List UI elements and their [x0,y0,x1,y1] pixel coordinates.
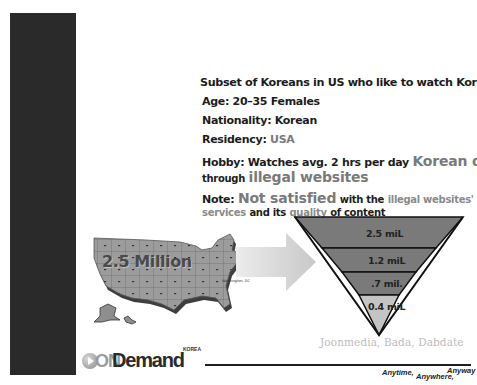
note-text-2: and its [249,207,286,218]
play-icon [88,357,94,365]
nationality-value: Korean [275,114,317,127]
hobby-text-2: through [202,173,245,184]
note-highlight-not-satisfied: Not satisfied [238,190,336,206]
residency-line: Residency: USA [202,133,477,146]
residency-value: USA [270,133,294,146]
decorative-side-bar [10,13,76,375]
hobby-highlight-korean-drama: Korean drama [412,153,477,169]
note-highlight-services: services [202,207,246,218]
hobby-label: Hobby: [202,156,244,169]
slide-heading: Subset of Koreans in US who like to watc… [200,76,477,89]
tagline-anyway: Anyway [447,366,475,375]
note-label: Note: [202,193,234,206]
funnel-label-3: .7 mil. [371,278,402,289]
age-value: 20–35 Females [233,95,320,108]
age-label: Age: [202,95,229,108]
tagline-anytime: Anytime, [382,368,414,377]
funnel-label-1: 2.5 miL [366,228,403,239]
age-line: Age: 20–35 Females [202,95,477,108]
logo-demand-text: Demand [112,349,184,372]
nationality-line: Nationality: Korean [202,114,477,127]
us-map-image: Washington, DC [84,228,254,328]
footer-divider [205,364,471,366]
residency-label: Residency: [202,133,267,146]
ondemand-korea-logo: ON Demand KOREA [82,350,212,372]
funnel-sources: Joonmedia, Bada, Dabdate [320,336,464,348]
funnel-label-2: 1.2 miL [368,255,405,266]
hobby-highlight-illegal-websites: illegal websites [249,169,369,185]
note-text-1: with the [340,194,384,205]
funnel-label-4: 0.4 miL [368,301,405,312]
map-population-label: 2.5 Million [102,252,192,271]
hobby-line: Hobby: Watches avg. 2 hrs per day Korean… [202,153,477,185]
hobby-text-1: Watches avg. 2 hrs per day [248,156,409,169]
logo-korea-text: KOREA [183,346,201,352]
note-highlight-illegal-websites: illegal websites' [388,194,474,205]
nationality-label: Nationality: [202,114,271,127]
audience-description: Subset of Koreans in US who like to watc… [200,76,477,219]
